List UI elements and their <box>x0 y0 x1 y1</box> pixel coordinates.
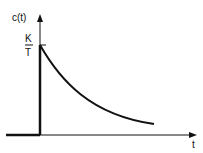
peak-numerator: K <box>25 34 32 44</box>
impulse-response-diagram <box>0 0 203 153</box>
peak-denominator: T <box>25 48 31 58</box>
decay-curve <box>40 45 154 124</box>
y-axis-arrow-icon <box>37 14 43 22</box>
x-axis-arrow-icon <box>189 132 197 138</box>
x-axis-label: t <box>192 140 195 150</box>
y-axis-label: c(t) <box>12 13 26 23</box>
